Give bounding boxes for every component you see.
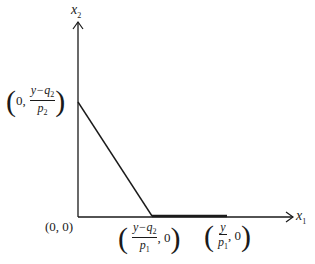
x-end-fraction: y p1 (218, 221, 228, 251)
x1-label-sub: 1 (302, 217, 306, 226)
close-paren: ) (241, 219, 251, 252)
kink-point-label: ( y−q2 p1 , 0) (118, 221, 180, 255)
kink-numerator: y−q2 (132, 221, 157, 238)
x-end-point-label: ( y p1 , 0) (204, 221, 251, 251)
x1-axis-label: x1 (296, 208, 306, 226)
y-intercept-label: (0, y−q2 p2 ) (6, 84, 65, 118)
origin-label: (0, 0) (45, 219, 73, 235)
close-paren: ) (170, 221, 180, 254)
y-intercept-prefix: 0, (16, 93, 26, 108)
kink-suffix: , 0 (157, 230, 170, 245)
budget-line-diagonal (78, 102, 152, 216)
x-end-numerator: y (219, 221, 226, 235)
close-paren: ) (55, 84, 65, 117)
y-intercept-fraction: y−q2 p2 (30, 84, 55, 118)
open-paren: ( (204, 219, 214, 252)
open-paren: ( (6, 84, 16, 117)
x-end-suffix: , 0 (228, 228, 241, 243)
y-intercept-numerator: y−q2 (30, 84, 55, 101)
x2-label-sub: 2 (77, 11, 81, 20)
kink-fraction: y−q2 p1 (132, 221, 157, 255)
x-end-denominator: p1 (218, 235, 228, 251)
kink-denominator: p1 (140, 238, 150, 254)
x2-axis-label: x2 (71, 2, 81, 20)
y-intercept-denominator: p2 (37, 101, 47, 117)
open-paren: ( (118, 221, 128, 254)
